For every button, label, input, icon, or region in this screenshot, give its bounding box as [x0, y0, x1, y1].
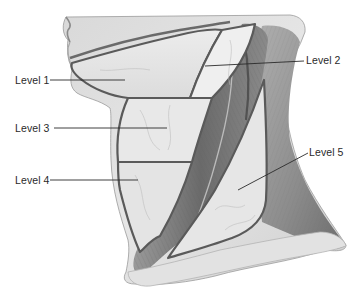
label-level-4: Level 4 [15, 174, 50, 186]
neck-illustration [0, 0, 358, 289]
label-level-5: Level 5 [309, 146, 344, 158]
label-level-3: Level 3 [15, 122, 50, 134]
label-level-1: Level 1 [15, 74, 50, 86]
neck-lymph-node-levels-figure: Level 1 Level 2 Level 3 Level 4 Level 5 [0, 0, 358, 289]
label-level-2: Level 2 [306, 54, 341, 66]
